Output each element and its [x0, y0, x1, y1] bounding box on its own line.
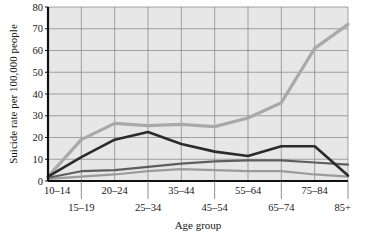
x-category-label: 20–24: [102, 185, 129, 196]
y-tick-label: 30: [33, 110, 44, 121]
x-category-label: 15–19: [68, 202, 94, 213]
x-category-label: 55–64: [235, 185, 262, 196]
y-tick-label: 50: [33, 67, 44, 78]
chart-figure: 01020304050607080 10–1415–1920–2425–3435…: [0, 0, 369, 235]
x-category-label: 10–14: [44, 185, 71, 196]
line-chart: 01020304050607080 10–1415–1920–2425–3435…: [0, 0, 369, 235]
x-axis-label: Age group: [175, 219, 222, 231]
x-category-label: 45–54: [202, 202, 229, 213]
x-category-label: 65–74: [268, 202, 295, 213]
y-tick-label: 20: [33, 132, 44, 143]
y-tick-label: 60: [33, 45, 44, 56]
y-tick-label: 0: [38, 176, 43, 187]
x-category-label: 85+: [335, 202, 352, 213]
y-axis-label: Suicide rate per 100,000 people: [7, 24, 19, 164]
y-tick-label: 40: [33, 89, 44, 100]
y-tick-label: 10: [33, 154, 44, 165]
y-tick-label: 70: [33, 23, 44, 34]
y-tick-label: 80: [33, 2, 44, 13]
x-category-label: 75–84: [302, 185, 329, 196]
x-category-label: 35–44: [168, 185, 195, 196]
x-category-label: 25–34: [135, 202, 162, 213]
